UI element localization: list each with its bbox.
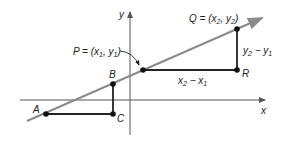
- label-a: A: [32, 104, 40, 115]
- point-c: [110, 111, 116, 117]
- slope-diagram: y x A B C R P = (x1, y1) Q = (x2, y2) y2…: [0, 0, 284, 142]
- rise-label: y2 − y1: [242, 45, 272, 57]
- label-q: Q = (x2, y2): [189, 13, 238, 25]
- run-label: x2 − x1: [177, 75, 207, 87]
- point-p: [140, 67, 146, 73]
- label-p: P = (x1, y1): [73, 46, 121, 58]
- y-axis-label: y: [118, 9, 125, 20]
- point-b: [110, 81, 116, 87]
- label-r: R: [242, 68, 249, 79]
- point-q: [234, 26, 240, 32]
- point-a: [43, 111, 49, 117]
- x-axis-label: x: [260, 105, 267, 116]
- point-r: [234, 67, 240, 73]
- label-c: C: [117, 113, 125, 124]
- label-b: B: [109, 69, 116, 80]
